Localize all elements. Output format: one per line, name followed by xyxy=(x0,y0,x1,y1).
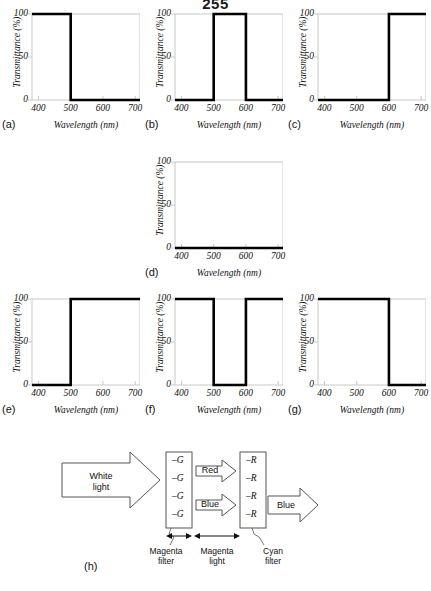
xtick-label-b-600: 600 xyxy=(230,103,262,113)
y-axis-label-c: Transmittance (%) xyxy=(298,4,311,100)
magenta-light-caption-line2: light xyxy=(209,556,225,566)
panel-label-a: (a) xyxy=(2,118,15,130)
data-curve-a xyxy=(32,14,140,100)
y-axis-label-f: Transmittance (%) xyxy=(155,289,168,385)
x-axis-label-c: Wavelength (nm) xyxy=(310,120,431,130)
cyan-filter-symbol-4: –R xyxy=(246,509,257,519)
xtick-label-d-700: 700 xyxy=(262,251,294,261)
xtick-label-g-700: 700 xyxy=(405,388,431,398)
xtick-label-f-500: 500 xyxy=(198,388,230,398)
red-beam-label: Red xyxy=(196,465,224,476)
y-axis-label-e: Transmittance (%) xyxy=(12,289,25,385)
xtick-label-b-500: 500 xyxy=(198,103,230,113)
magenta-filter-symbol-4: –G xyxy=(172,509,184,519)
cyan-filter-caption-line2: filter xyxy=(265,556,281,566)
magenta-filter-caption-line1: Magenta xyxy=(149,546,182,556)
xtick-label-g-400: 400 xyxy=(308,388,340,398)
x-axis-label-a: Wavelength (nm) xyxy=(24,120,148,130)
x-axis-label-e: Wavelength (nm) xyxy=(24,405,148,415)
magenta-light-arrowhead-right xyxy=(186,533,192,539)
xtick-label-c-700: 700 xyxy=(405,103,431,113)
xtick-label-g-600: 600 xyxy=(373,388,405,398)
cyan-filter-symbol-1: –R xyxy=(246,455,257,465)
panel-label-c: (c) xyxy=(288,118,301,130)
magenta-filter-symbol-3: –G xyxy=(172,491,184,501)
color-subtraction-diagram: White light –G –G –G –G –R –R –R –R Red … xyxy=(0,450,431,591)
magenta-filter-caption-line2: filter xyxy=(158,556,174,566)
y-axis-label-g: Transmittance (%) xyxy=(298,289,311,385)
xtick-label-c-500: 500 xyxy=(341,103,373,113)
y-axis-label-d: Transmittance (%) xyxy=(155,152,168,248)
xtick-label-b-400: 400 xyxy=(165,103,197,113)
panel-label-b: (b) xyxy=(145,118,158,130)
xtick-label-e-500: 500 xyxy=(55,388,87,398)
y-axis-label-b: Transmittance (%) xyxy=(155,4,168,100)
xtick-label-c-400: 400 xyxy=(308,103,340,113)
data-curve-g xyxy=(318,299,426,385)
cyan-filter-symbol-3: –R xyxy=(246,491,257,501)
magenta-light-span-arrowhead-right xyxy=(234,533,240,539)
xtick-label-a-600: 600 xyxy=(87,103,119,113)
panel-label-f: (f) xyxy=(145,403,155,415)
data-curve-b xyxy=(175,14,283,100)
xtick-label-e-600: 600 xyxy=(87,388,119,398)
x-axis-label-f: Wavelength (nm) xyxy=(167,405,291,415)
x-axis-label-b: Wavelength (nm) xyxy=(167,120,291,130)
xtick-label-f-400: 400 xyxy=(165,388,197,398)
xtick-label-a-400: 400 xyxy=(22,103,54,113)
white-light-label-line2: light xyxy=(93,482,110,492)
blue-output-label: Blue xyxy=(272,500,300,511)
magenta-filter-symbol-2: –G xyxy=(172,473,184,483)
panel-label-g: (g) xyxy=(288,403,301,415)
x-axis-label-d: Wavelength (nm) xyxy=(167,268,291,278)
cyan-filter-caption: Cyan filter xyxy=(243,546,303,566)
data-curve-e xyxy=(32,299,140,385)
blue-beam-label: Blue xyxy=(196,499,224,510)
magenta-light-caption-line1: Magenta xyxy=(200,546,233,556)
x-axis-label-g: Wavelength (nm) xyxy=(310,405,431,415)
data-curve-f xyxy=(175,299,283,385)
magenta-light-caption: Magenta light xyxy=(182,546,252,566)
data-curve-c xyxy=(318,14,426,100)
cyan-filter-leader xyxy=(252,528,264,545)
white-light-label-line1: White xyxy=(89,471,112,481)
figure-page: 255 050100400500600700Transmittance (%)W… xyxy=(0,0,431,591)
cyan-filter-caption-line1: Cyan xyxy=(263,546,283,556)
panel-label-h: (h) xyxy=(84,560,97,572)
y-axis-label-a: Transmittance (%) xyxy=(12,4,25,100)
xtick-label-f-600: 600 xyxy=(230,388,262,398)
magenta-filter-symbol-1: –G xyxy=(172,455,184,465)
panel-label-d: (d) xyxy=(145,266,158,278)
xtick-label-d-500: 500 xyxy=(198,251,230,261)
xtick-label-d-600: 600 xyxy=(230,251,262,261)
xtick-label-d-400: 400 xyxy=(165,251,197,261)
white-light-label: White light xyxy=(76,471,126,493)
xtick-label-a-500: 500 xyxy=(55,103,87,113)
xtick-label-e-400: 400 xyxy=(22,388,54,398)
cyan-filter-symbol-2: –R xyxy=(246,473,257,483)
panel-label-e: (e) xyxy=(2,403,15,415)
magenta-light-span-arrowhead-left xyxy=(194,533,200,539)
xtick-label-c-600: 600 xyxy=(373,103,405,113)
xtick-label-g-500: 500 xyxy=(341,388,373,398)
